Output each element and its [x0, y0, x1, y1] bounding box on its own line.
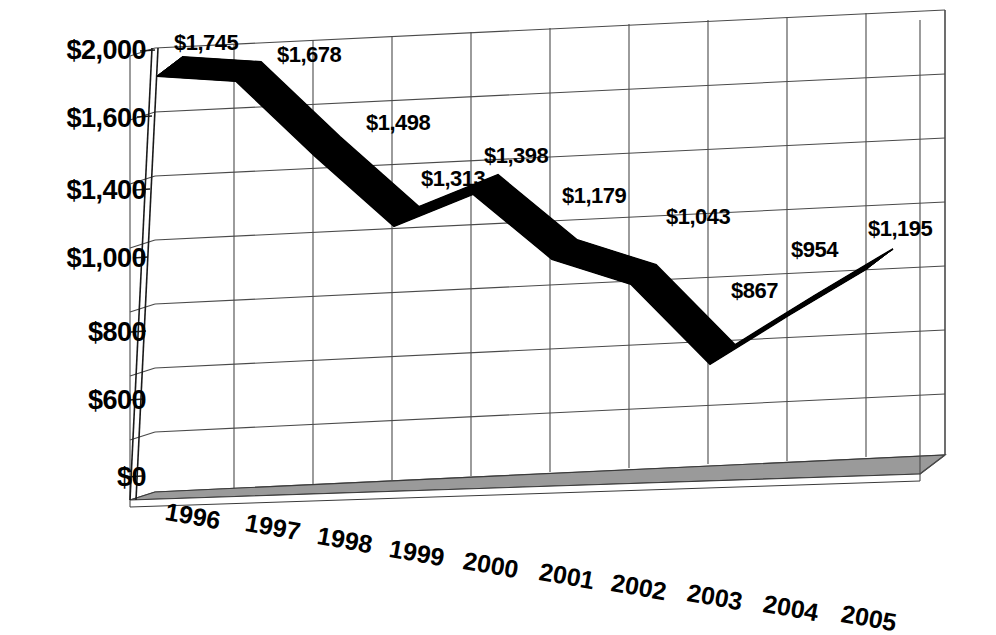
data-point-label: $1,745: [174, 30, 238, 56]
data-point-label: $1,313: [421, 166, 485, 192]
y-axis-tick-label: $800: [28, 317, 146, 348]
y-axis-tick-label: $600: [28, 385, 146, 416]
data-point-label: $1,498: [366, 110, 430, 136]
data-point-label: $1,043: [666, 204, 730, 230]
y-axis-tick-label: $1,400: [28, 175, 146, 206]
data-point-label: $1,179: [562, 183, 626, 209]
data-point-label: $1,398: [484, 143, 548, 169]
data-point-label: $867: [731, 278, 778, 304]
y-axis-tick-label: $1,600: [28, 103, 146, 134]
data-point-label: $954: [791, 237, 838, 263]
data-point-label: $1,195: [868, 216, 932, 242]
data-point-label: $1,678: [277, 42, 341, 68]
y-axis-tick-label: $2,000: [28, 35, 146, 66]
y-axis-tick-label: $0: [28, 462, 146, 493]
y-axis-tick-label: $1,000: [28, 243, 146, 274]
